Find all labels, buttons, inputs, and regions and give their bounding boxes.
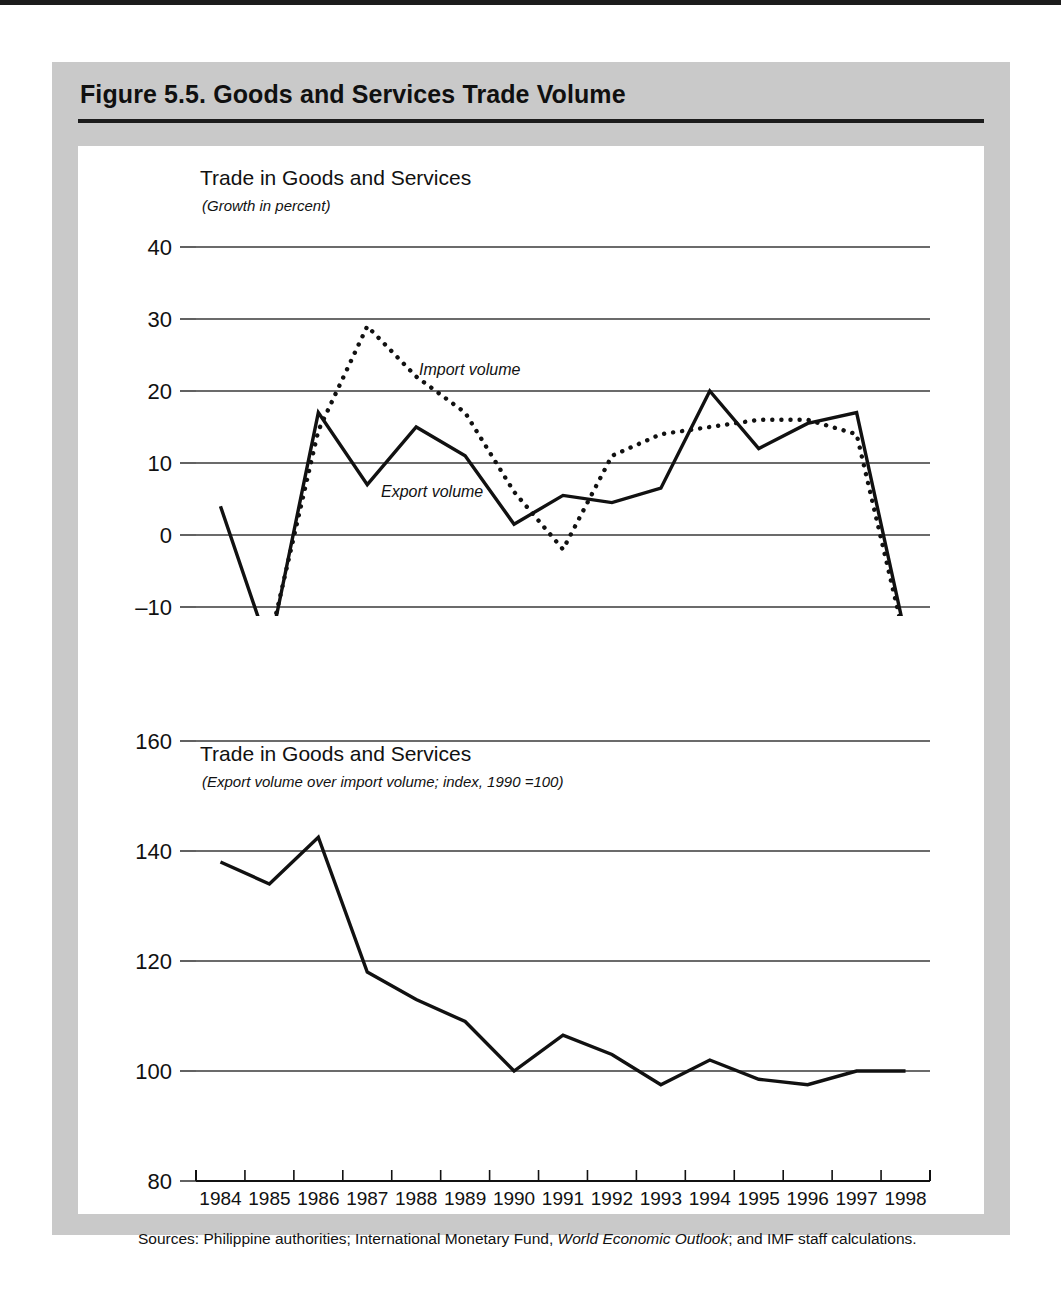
y-tick-label: 120 xyxy=(135,949,172,974)
export-volume-series-label: Export volume xyxy=(381,483,483,501)
x-tick-label: 1993 xyxy=(640,1188,682,1209)
bottom-chart-plot: 1601401201008019841985198619871988198919… xyxy=(78,716,984,1226)
x-tick-label: 1995 xyxy=(738,1188,780,1209)
x-tick-label: 1994 xyxy=(689,1188,732,1209)
x-tick-label: 1991 xyxy=(542,1188,584,1209)
y-tick-label: 140 xyxy=(135,839,172,864)
series-line-1 xyxy=(220,391,905,616)
figure-title: Figure 5.5. Goods and Services Trade Vol… xyxy=(80,80,626,109)
x-tick-label: 1990 xyxy=(493,1188,535,1209)
x-tick-label: 1989 xyxy=(444,1188,486,1209)
x-tick-label: 1992 xyxy=(591,1188,633,1209)
y-tick-label: 20 xyxy=(148,379,172,404)
source-publication: World Economic Outlook xyxy=(558,1230,729,1247)
x-tick-label: 1985 xyxy=(248,1188,290,1209)
x-tick-label: 1997 xyxy=(835,1188,877,1209)
x-tick-label: 1986 xyxy=(297,1188,339,1209)
import-volume-series-label: Import volume xyxy=(419,361,520,379)
y-tick-label: 0 xyxy=(160,523,172,548)
y-tick-label: –10 xyxy=(135,595,172,616)
page-top-rule xyxy=(0,0,1061,5)
figure-panel: Figure 5.5. Goods and Services Trade Vol… xyxy=(52,62,1010,1235)
x-tick-label: 1987 xyxy=(346,1188,388,1209)
y-tick-label: 10 xyxy=(148,451,172,476)
y-tick-label: 40 xyxy=(148,235,172,260)
source-note: Sources: Philippine authorities; Interna… xyxy=(138,1228,938,1250)
x-tick-label: 1996 xyxy=(787,1188,829,1209)
x-tick-label: 1984 xyxy=(199,1188,242,1209)
figure-inner-area: Trade in Goods and Services (Growth in p… xyxy=(78,146,984,1214)
source-prefix: Sources: Philippine authorities; Interna… xyxy=(138,1230,558,1247)
y-tick-label: 30 xyxy=(148,307,172,332)
y-tick-label: 100 xyxy=(135,1059,172,1084)
y-tick-label: 160 xyxy=(135,729,172,754)
series-line-2 xyxy=(220,326,905,616)
x-tick-label: 1988 xyxy=(395,1188,437,1209)
top-chart-plot: 403020100–10–201984198519861987198819891… xyxy=(78,146,984,616)
x-tick-label: 1998 xyxy=(884,1188,926,1209)
title-underline-divider xyxy=(78,119,984,123)
y-tick-label: 80 xyxy=(148,1169,172,1194)
source-suffix: ; and IMF staff calculations. xyxy=(728,1230,916,1247)
